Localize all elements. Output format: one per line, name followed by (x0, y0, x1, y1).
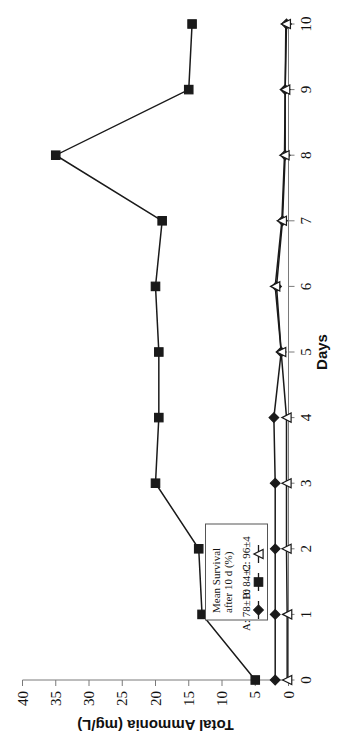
y-tick-label: 15 (180, 691, 196, 706)
marker-filled-square (251, 676, 259, 684)
point-B-3 (151, 479, 159, 487)
marker-filled-square (157, 217, 165, 225)
marker-filled-diamond (270, 544, 280, 554)
point-B-0 (251, 676, 259, 684)
line-chart: 012345678910 0510152025303540 Days Total… (0, 0, 349, 742)
point-B-10 (187, 20, 195, 28)
x-tick-label: 5 (297, 348, 313, 356)
y-tick-label: 20 (147, 691, 163, 706)
y-axis-ticks (22, 680, 288, 686)
x-tick-label: 10 (297, 17, 313, 32)
x-tick-label: 1 (297, 611, 313, 619)
point-A-3 (270, 478, 280, 488)
point-B-1 (197, 610, 205, 618)
marker-filled-square (254, 578, 262, 586)
chart-figure: 012345678910 0510152025303540 Days Total… (0, 0, 349, 742)
chart-legend: Mean Survival after 10 d (%) A: 78±10B: … (205, 524, 267, 631)
marker-filled-square (194, 545, 202, 553)
marker-filled-diamond (270, 610, 280, 620)
y-tick-label: 0 (280, 691, 296, 699)
point-B-5 (154, 348, 162, 356)
marker-filled-diamond (270, 478, 280, 488)
x-tick-label: 9 (297, 86, 313, 94)
y-tick-label: 40 (14, 691, 30, 706)
marker-filled-diamond (270, 675, 280, 685)
y-axis-title: Total Ammonia (mg/L) (77, 717, 234, 734)
legend-label-C: C: 96±4 (239, 536, 251, 572)
marker-filled-square (51, 151, 59, 159)
y-axis-tick-labels: 0510152025303540 (14, 691, 296, 706)
marker-filled-square (151, 479, 159, 487)
point-B-7 (157, 217, 165, 225)
y-tick-label: 5 (247, 691, 263, 699)
point-A-1 (270, 610, 280, 620)
plot-area: 012345678910 0510152025303540 Days Total… (0, 0, 349, 742)
legend-title-line-2: after 10 d (%) (221, 551, 234, 613)
x-tick-label: 6 (297, 282, 313, 290)
point-B-9 (184, 85, 192, 93)
x-tick-label: 7 (297, 217, 313, 225)
marker-filled-square (184, 85, 192, 93)
y-tick-label: 10 (214, 691, 230, 706)
marker-filled-square (151, 282, 159, 290)
y-tick-label: 35 (47, 691, 63, 706)
x-axis-tick-labels: 012345678910 (297, 17, 313, 684)
point-B-4 (154, 413, 162, 421)
point-B-6 (151, 282, 159, 290)
marker-filled-diamond (269, 413, 279, 423)
marker-filled-square (154, 348, 162, 356)
marker-filled-square (197, 610, 205, 618)
legend-title-line-1: Mean Survival (209, 548, 221, 613)
point-A-2 (270, 544, 280, 554)
marker-filled-square (154, 413, 162, 421)
point-A-4 (269, 413, 279, 423)
legend-marker-B (254, 578, 262, 586)
x-tick-label: 4 (297, 413, 313, 421)
point-B-8 (51, 151, 59, 159)
x-axis-title: Days (312, 334, 329, 370)
point-A-0 (270, 675, 280, 685)
x-tick-label: 3 (297, 479, 313, 487)
y-tick-label: 30 (81, 691, 97, 706)
x-tick-label: 2 (297, 545, 313, 553)
y-tick-label: 25 (114, 691, 130, 706)
point-B-2 (194, 545, 202, 553)
x-tick-label: 0 (297, 676, 313, 684)
x-tick-label: 8 (297, 151, 313, 159)
marker-filled-square (187, 20, 195, 28)
